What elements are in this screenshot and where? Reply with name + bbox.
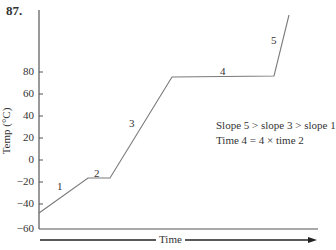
x-axis-label: Time [156,233,185,245]
y-tick-m20: −20 [6,175,34,187]
y-tick-m60: −60 [6,222,34,234]
segment-label-4: 4 [220,65,226,77]
time-arrow-head-icon [308,237,317,243]
annotation-block: Slope 5 > slope 3 > slope 1 Time 4 = 4 ×… [216,118,336,148]
y-tick-m40: −40 [6,197,34,209]
segment-label-1: 1 [57,180,63,192]
annotation-time: Time 4 = 4 × time 2 [216,133,336,148]
segment-label-5: 5 [271,34,277,46]
heating-curve [39,15,289,213]
segment-label-2: 2 [94,167,100,179]
y-tick-80: 80 [6,65,34,77]
y-tick-20: 20 [6,131,34,143]
segment-label-3: 3 [129,117,135,129]
annotation-slope: Slope 5 > slope 3 > slope 1 [216,118,336,133]
y-tick-40: 40 [6,109,34,121]
y-tick-0: 0 [6,153,34,165]
y-tick-60: 60 [6,87,34,99]
